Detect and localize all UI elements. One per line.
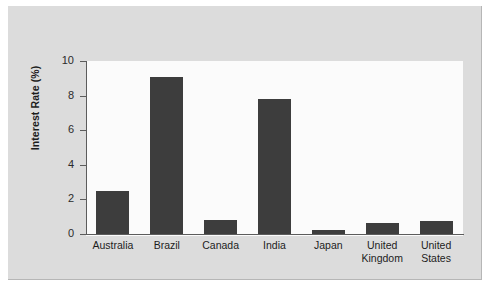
bar-united-kingdom[interactable] [366, 223, 399, 234]
x-axis-label-united-states: United States [396, 239, 476, 265]
y-axis-tick-label-2: 2 [34, 193, 74, 205]
chart-canvas: Interest Rate (%) 0246810 AustraliaBrazi… [0, 0, 489, 287]
bar-india[interactable] [258, 99, 291, 234]
y-axis-tick-label-text: 0 [34, 228, 74, 239]
y-axis-line [86, 61, 87, 235]
bar-australia[interactable] [96, 191, 129, 234]
y-axis-title: Interest Rate (%) [29, 43, 41, 173]
bar-canada[interactable] [204, 220, 237, 234]
y-axis-tick-label-0: 0 [34, 228, 74, 240]
x-axis-line [86, 234, 464, 235]
y-axis-tick-label-text: 2 [34, 193, 74, 204]
figure-panel: Interest Rate (%) 0246810 AustraliaBrazi… [8, 6, 482, 280]
bar-united-states[interactable] [420, 221, 453, 234]
bar-brazil[interactable] [150, 77, 183, 234]
